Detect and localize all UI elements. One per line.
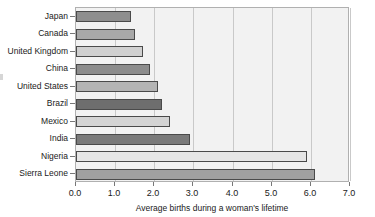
y-label-brazil: Brazil bbox=[0, 98, 68, 108]
bars-group bbox=[76, 8, 348, 181]
bar-row bbox=[76, 26, 348, 44]
bar-row bbox=[76, 96, 348, 114]
x-label-5-0: 5.0 bbox=[251, 188, 291, 198]
x-tick bbox=[192, 182, 193, 186]
bar-chart: JapanCanadaUnited KingdomChinaUnited Sta… bbox=[0, 0, 375, 217]
y-tick bbox=[70, 68, 75, 69]
bar-row bbox=[76, 61, 348, 79]
y-label-nigeria: Nigeria bbox=[0, 151, 68, 161]
bar-india bbox=[76, 134, 190, 145]
y-label-united-states: United States bbox=[0, 81, 68, 91]
bar-mexico bbox=[76, 116, 170, 127]
y-tick bbox=[70, 103, 75, 104]
y-label-mexico: Mexico bbox=[0, 116, 68, 126]
gridline bbox=[350, 8, 351, 181]
x-label-1-0: 1.0 bbox=[94, 188, 134, 198]
bar-row bbox=[76, 78, 348, 96]
bar-united-states bbox=[76, 81, 158, 92]
y-tick bbox=[70, 138, 75, 139]
y-tick bbox=[70, 156, 75, 157]
y-tick bbox=[70, 121, 75, 122]
y-label-united-kingdom: United Kingdom bbox=[0, 46, 68, 56]
x-label-0-0: 0.0 bbox=[55, 188, 95, 198]
bar-sierra-leone bbox=[76, 169, 315, 180]
y-label-india: India bbox=[0, 133, 68, 143]
bar-row bbox=[76, 43, 348, 61]
x-tick bbox=[310, 182, 311, 186]
x-label-3-0: 3.0 bbox=[172, 188, 212, 198]
bar-brazil bbox=[76, 99, 162, 110]
y-label-canada: Canada bbox=[0, 28, 68, 38]
y-tick bbox=[70, 16, 75, 17]
bar-row bbox=[76, 113, 348, 131]
bar-nigeria bbox=[76, 151, 307, 162]
y-label-sierra-leone: Sierra Leone bbox=[0, 168, 68, 178]
bar-united-kingdom bbox=[76, 46, 143, 57]
y-tick bbox=[70, 173, 75, 174]
bar-china bbox=[76, 64, 150, 75]
y-tick bbox=[70, 86, 75, 87]
x-label-2-0: 2.0 bbox=[133, 188, 173, 198]
x-tick bbox=[349, 182, 350, 186]
x-tick bbox=[271, 182, 272, 186]
bar-row bbox=[76, 8, 348, 26]
x-label-7-0: 7.0 bbox=[329, 188, 369, 198]
plot-area bbox=[75, 7, 349, 182]
x-axis-title: Average births during a woman's lifetime bbox=[75, 203, 349, 213]
y-label-china: China bbox=[0, 63, 68, 73]
x-label-4-0: 4.0 bbox=[212, 188, 252, 198]
bar-canada bbox=[76, 29, 135, 40]
y-tick bbox=[70, 51, 75, 52]
x-tick bbox=[114, 182, 115, 186]
bar-row bbox=[76, 148, 348, 166]
x-tick bbox=[153, 182, 154, 186]
x-label-6-0: 6.0 bbox=[290, 188, 330, 198]
bar-row bbox=[76, 131, 348, 149]
left-edge-artifact bbox=[0, 74, 3, 80]
bar-row bbox=[76, 166, 348, 184]
y-tick bbox=[70, 33, 75, 34]
x-tick bbox=[75, 182, 76, 186]
y-label-japan: Japan bbox=[0, 11, 68, 21]
bar-japan bbox=[76, 11, 131, 22]
x-tick bbox=[232, 182, 233, 186]
